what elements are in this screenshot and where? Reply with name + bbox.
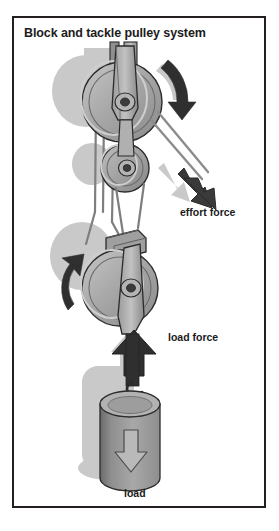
figure-root: Block and tackle pulley system	[0, 0, 279, 531]
effort-arrow-shadow	[158, 163, 190, 202]
load-force-label: load force	[168, 331, 218, 343]
upper-pulley-axle	[115, 93, 135, 111]
load-label: load	[124, 487, 146, 499]
effort-force-label: effort force	[180, 206, 235, 218]
pulley-system-illustration	[12, 16, 266, 508]
load-cylinder-top-inner	[108, 397, 152, 414]
small-axle-bore	[123, 165, 131, 172]
upper-block-strap	[118, 120, 134, 156]
rope-effort-lower	[151, 120, 202, 179]
upper-axle-bore	[121, 98, 130, 106]
rope-effort-upper	[158, 112, 208, 172]
rope-to-movable-right	[138, 184, 144, 228]
load-assembly	[100, 334, 160, 491]
upper-pulley-rotation-arrow	[161, 60, 196, 120]
lower-axle-bore	[127, 284, 136, 292]
load-hanger-strap	[126, 334, 139, 386]
